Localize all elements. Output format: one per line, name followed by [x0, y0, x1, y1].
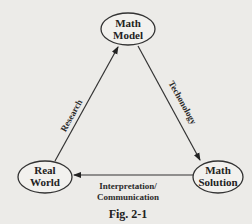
node-math-model: Math Model	[101, 13, 155, 45]
node-math-solution-line2: Solution	[198, 176, 237, 188]
node-real-world-line2: World	[30, 176, 60, 188]
technology-arrow	[138, 46, 200, 160]
node-math-model-line1: Math	[115, 17, 141, 29]
interpretation-label-line2: Communication	[97, 192, 159, 202]
cycle-diagram: Math Model Real World Math Solution Rese…	[0, 0, 252, 224]
node-real-world-line1: Real	[34, 164, 55, 176]
node-real-world: Real World	[18, 161, 72, 193]
node-math-model-line2: Model	[113, 29, 143, 41]
node-math-solution: Math Solution	[193, 161, 243, 193]
node-math-solution-line1: Math	[205, 164, 231, 176]
research-arrow	[55, 47, 118, 161]
technology-label: Techonology	[167, 79, 199, 126]
interpretation-label-line1: Interpretation/	[99, 181, 157, 191]
figure-caption: Fig. 2-1	[109, 207, 148, 221]
